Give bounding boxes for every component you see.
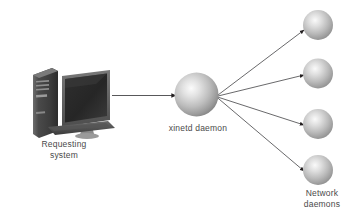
dispatch-arrow-1 — [216, 30, 304, 97]
network-daemons-label-line2: daemons — [304, 199, 340, 209]
dispatch-arrow-2 — [216, 75, 304, 97]
requesting-system-label-line1: Requesting — [41, 139, 86, 149]
requesting-system-label: Requestingsystem — [12, 139, 116, 161]
network-daemon-sphere-3 — [303, 109, 333, 139]
requesting-system-label-line2: system — [50, 150, 78, 160]
diagram-canvas: Requestingsystem xinetd daemon Networkda… — [0, 0, 352, 224]
dispatch-arrow-3 — [216, 97, 304, 126]
network-daemon-sphere-2 — [303, 59, 333, 89]
network-daemon-sphere-1 — [303, 10, 333, 40]
network-daemons-label-line1: Network — [306, 188, 339, 198]
xinetd-daemon-label: xinetd daemon — [152, 123, 244, 134]
computer-icon-group — [33, 68, 115, 139]
network-daemon-sphere-4 — [303, 155, 333, 185]
network-daemons-label: Networkdaemons — [292, 188, 352, 210]
xinetd-daemon-sphere-icon — [175, 73, 219, 117]
